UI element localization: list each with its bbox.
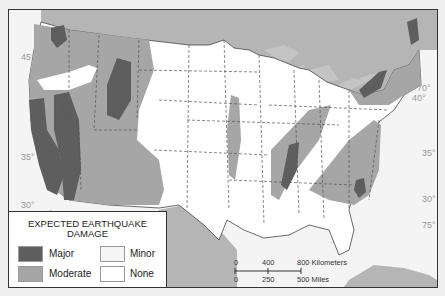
legend-title: EXPECTED EARTHQUAKE DAMAGE — [9, 219, 166, 239]
legend-label-moderate: Moderate — [49, 268, 91, 279]
lat-label-35-east: 35° — [422, 148, 436, 158]
lat-label-40-east: 40° — [412, 93, 426, 103]
lat-label-30-east: 30° — [422, 194, 436, 204]
scale-mi-250: 250 — [262, 275, 275, 284]
legend-label-major: Major — [49, 248, 74, 259]
legend-swatch-major — [18, 246, 43, 262]
legend-label-minor: Minor — [130, 248, 155, 259]
lon-label-75: 75° — [422, 220, 436, 230]
legend-label-none: None — [130, 268, 154, 279]
scale-bar: 0 400 800 Kilometers 0 250 500 Miles — [234, 258, 354, 288]
cuba — [344, 265, 437, 287]
map-frame: 45° 35° 30° 70° 40° 35° 30° 75° EXPECTED… — [8, 9, 438, 288]
legend-swatch-moderate — [18, 266, 43, 282]
lon-label-70: 70° — [417, 83, 431, 93]
legend-swatch-minor — [100, 246, 125, 262]
scale-line — [234, 267, 304, 275]
lat-label-30: 30° — [21, 200, 35, 210]
legend: EXPECTED EARTHQUAKE DAMAGE Major Moderat… — [9, 211, 167, 288]
scale-km-800: 800 Kilometers — [297, 258, 347, 267]
legend-swatch-none — [100, 266, 125, 282]
lat-label-45: 45° — [21, 52, 35, 62]
scale-km-400: 400 — [262, 258, 275, 267]
scale-mi-500: 500 Miles — [297, 275, 329, 284]
scale-mi-0: 0 — [234, 275, 238, 284]
lat-label-35: 35° — [21, 152, 35, 162]
scale-km-0: 0 — [234, 258, 238, 267]
